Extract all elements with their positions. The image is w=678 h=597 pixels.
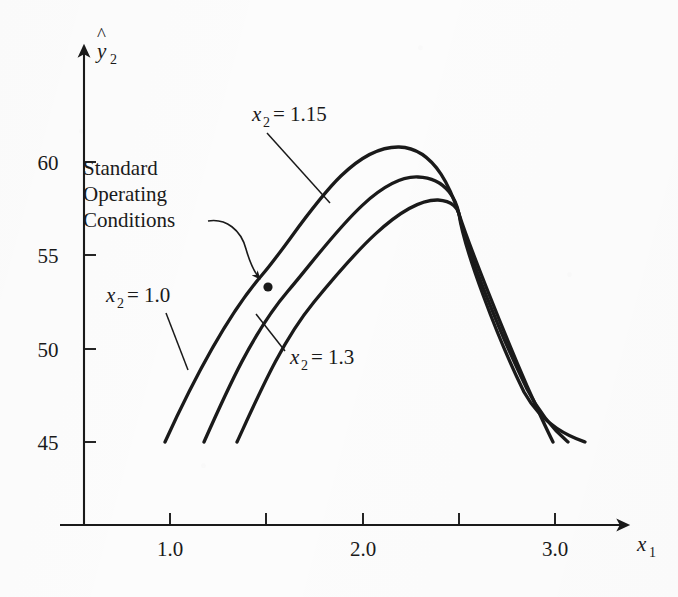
y-tick-label-45: 45 <box>38 431 59 455</box>
standard-conditions-arrow <box>208 221 260 279</box>
curve-label-x2-1-15: x 2 = 1.15 <box>251 102 330 203</box>
x-axis-label-text: x <box>636 532 647 556</box>
y-tick-label-55: 55 <box>38 244 59 268</box>
curve-label-x2-1-15-leader <box>267 133 330 203</box>
y-axis-label: y ^ 2 <box>95 24 117 67</box>
curve-label-x2-1-0: x 2 = 1.0 <box>105 283 188 370</box>
curve-label-x2-1-15-var: x <box>251 102 262 126</box>
y-tick-label-60: 60 <box>38 151 59 175</box>
x-axis-label: x 1 <box>636 532 656 560</box>
standard-conditions-line-3: Conditions <box>83 208 175 232</box>
x-tick-label-3-0: 3.0 <box>542 537 568 561</box>
x-tick-label-2-0: 2.0 <box>350 537 376 561</box>
curve-x2-1-3 <box>237 200 585 442</box>
curve-label-x2-1-0-leader <box>166 313 188 370</box>
curves-group <box>165 147 585 442</box>
chart-figure: y ^ 2 x 1 45 50 55 60 1.0 2.0 3.0 <box>0 0 678 597</box>
y-tick-label-50: 50 <box>38 338 59 362</box>
curve-label-x2-1-3-leader <box>256 314 285 351</box>
curve-label-x2-1-0-subscript: 2 <box>117 296 124 311</box>
y-axis-hat-accent: ^ <box>97 24 106 45</box>
curve-x2-1-15 <box>204 177 568 442</box>
standard-conditions-line-2: Operating <box>83 182 167 206</box>
curve-label-x2-1-3: x 2 = 1.3 <box>256 314 354 373</box>
standard-operating-conditions-annotation: Standard Operating Conditions <box>83 156 273 292</box>
x-axis-label-subscript: 1 <box>649 545 656 560</box>
x-axis-ticks: 1.0 2.0 3.0 <box>157 513 568 561</box>
curve-label-x2-1-3-subscript: 2 <box>301 358 308 373</box>
standard-conditions-point-marker <box>263 282 272 291</box>
curve-label-x2-1-15-subscript: 2 <box>263 115 270 130</box>
standard-conditions-line-1: Standard <box>83 156 158 180</box>
curve-label-x2-1-15-value: = 1.15 <box>273 102 327 126</box>
x-tick-label-1-0: 1.0 <box>157 537 183 561</box>
curve-label-x2-1-3-var: x <box>289 345 300 369</box>
curve-label-x2-1-3-value: = 1.3 <box>311 345 354 369</box>
y-axis-label-subscript: 2 <box>110 52 117 67</box>
curve-label-x2-1-0-var: x <box>105 283 116 307</box>
curve-label-x2-1-0-value: = 1.0 <box>127 283 170 307</box>
